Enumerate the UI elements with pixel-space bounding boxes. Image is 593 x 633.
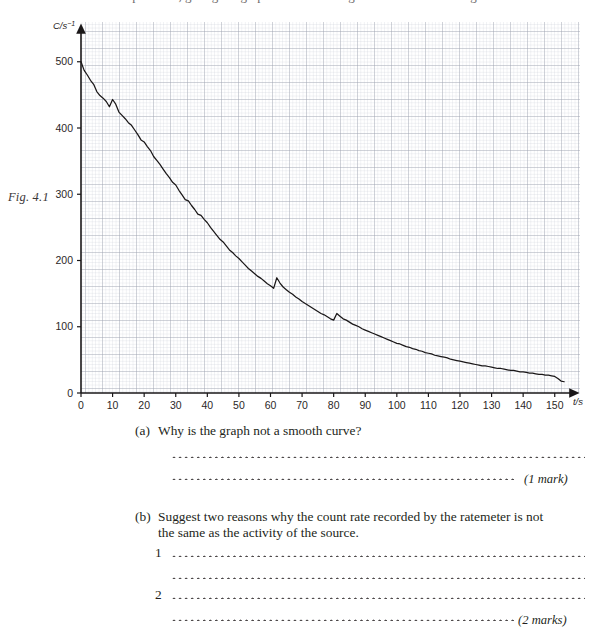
y-tick-label: 300 [55, 188, 73, 200]
x-tick-label: 90 [359, 399, 371, 411]
x-tick-label: 80 [328, 399, 340, 411]
answer-line-a-1[interactable] [171, 455, 585, 458]
question-b-text-line1: Suggest two reasons why the count rate r… [158, 509, 578, 525]
x-tick-label: 130 [483, 399, 501, 411]
x-tick-label: 110 [420, 399, 437, 411]
question-b-text-line2: the same as the activity of the source. [158, 525, 578, 541]
x-tick-label: 100 [388, 399, 406, 411]
cropped-header-text: experiment, giving the graph of count ra… [120, 0, 503, 4]
y-axis-ticks: 0100200300400500 [55, 55, 81, 398]
y-tick-label: 400 [55, 122, 73, 134]
x-tick-label: 120 [451, 399, 469, 411]
y-tick-label: 200 [55, 254, 73, 266]
x-axis-title: t/s [573, 396, 583, 407]
answer-line-b-2b[interactable] [171, 618, 514, 621]
question-a-text: Why is the graph not a smooth curve? [158, 423, 578, 439]
x-axis-ticks: 0102030405060708090100110120130140150 [78, 393, 564, 411]
chart-canvas: 0100200300400500 01020304050607080901001… [0, 14, 593, 424]
x-tick-label: 150 [546, 399, 564, 411]
figure-4-1-graph: 0100200300400500 01020304050607080901001… [0, 14, 593, 424]
answer-item-2-number: 2 [155, 587, 162, 603]
y-tick-label: 100 [55, 320, 73, 332]
y-tick-label: 0 [67, 387, 73, 399]
y-tick-label: 500 [55, 55, 73, 67]
question-a-label: (a) [135, 423, 150, 439]
x-tick-label: 10 [107, 399, 119, 411]
answer-line-a-2[interactable] [171, 477, 514, 480]
answer-line-b-2a[interactable] [171, 596, 585, 599]
x-tick-label: 50 [233, 399, 245, 411]
answer-line-b-1b[interactable] [171, 576, 585, 579]
x-tick-label: 70 [296, 399, 308, 411]
x-tick-label: 30 [170, 399, 182, 411]
x-tick-label: 40 [201, 399, 213, 411]
x-tick-label: 20 [138, 399, 150, 411]
question-a-marks: (1 mark) [524, 472, 568, 487]
question-b-label: (b) [135, 509, 151, 525]
x-tick-label: 140 [514, 399, 532, 411]
question-b-marks: (2 marks) [518, 613, 567, 628]
answer-item-1-number: 1 [155, 545, 162, 561]
cropped-header-line: experiment, giving the graph of count ra… [0, 0, 593, 9]
grid-major [81, 22, 580, 393]
x-tick-label: 0 [78, 399, 84, 411]
exam-page: experiment, giving the graph of count ra… [0, 0, 593, 633]
y-axis-title: C/s−1 [53, 20, 75, 31]
answer-line-b-1a[interactable] [171, 554, 585, 557]
x-tick-label: 60 [265, 399, 277, 411]
